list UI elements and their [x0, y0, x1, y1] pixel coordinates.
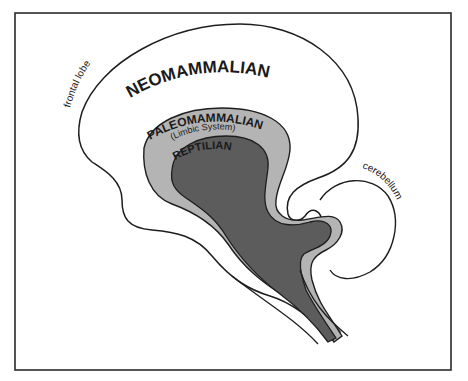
- triune-brain-diagram: NEOMAMMALIAN PALEOMAMMALIAN (Limbic Syst…: [0, 0, 468, 381]
